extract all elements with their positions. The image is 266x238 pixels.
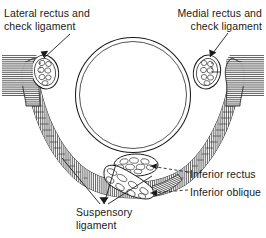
label-medial-rectus-and-check-ligament: Medial rectus and check ligament xyxy=(158,7,262,32)
label-suspensory-ligament: Suspensory ligament xyxy=(76,206,132,231)
anatomy-figure: Lateral rectus and check ligament Medial… xyxy=(0,0,266,238)
label-inferior-rectus: Inferior rectus xyxy=(190,168,256,181)
label-inferior-oblique: Inferior oblique xyxy=(190,186,261,199)
leader-inferior-rectus xyxy=(150,163,188,172)
label-lateral-rectus-and-check-ligament: Lateral rectus and check ligament xyxy=(4,7,90,32)
eyeball xyxy=(76,38,191,153)
eye-suspensory-ligament-diagram xyxy=(0,0,266,238)
